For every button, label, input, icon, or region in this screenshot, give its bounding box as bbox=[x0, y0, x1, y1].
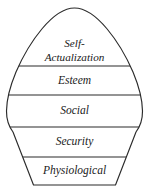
tier-label-social: Social bbox=[60, 104, 89, 116]
tier-label-esteem: Esteem bbox=[57, 74, 91, 86]
tier-label-physiological: Physiological bbox=[42, 164, 106, 177]
hierarchy-diagram: Self- Actualization Esteem Social Securi… bbox=[0, 0, 149, 193]
tier-label-self-actualization-line1: Self- bbox=[64, 37, 85, 49]
hierarchy-outline bbox=[6, 8, 142, 185]
tier-label-self-actualization-line2: Actualization bbox=[44, 51, 105, 63]
tier-label-security: Security bbox=[56, 135, 95, 148]
hierarchy-diagram-canvas: Self- Actualization Esteem Social Securi… bbox=[0, 0, 149, 193]
